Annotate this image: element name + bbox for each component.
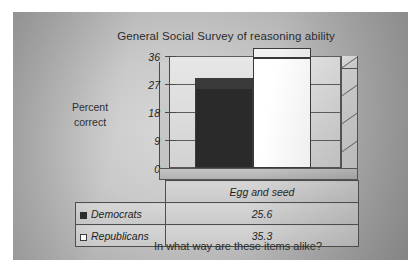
legend-key-democrats[interactable]: Democrats	[76, 203, 166, 225]
plot-area: 09182736	[153, 56, 358, 180]
y-axis-tick: 9	[165, 140, 176, 141]
data-table: Egg and seed Democrats 25.6 Republicans …	[75, 180, 359, 247]
bar-top-face	[253, 48, 311, 58]
table-spacer-cell	[76, 181, 166, 203]
plot-floor	[159, 168, 358, 180]
table-row: Democrats 25.6	[76, 203, 359, 225]
plot-left-depth-face	[159, 62, 169, 174]
bar-front-face	[253, 58, 311, 168]
bar-front-face	[195, 88, 253, 168]
slide-canvas: General Social Survey of reasoning abili…	[13, 12, 408, 260]
bar-top-face	[195, 78, 253, 88]
category-header-cell: Egg and seed	[166, 181, 359, 203]
y-axis-tick: 18	[165, 112, 176, 113]
democrats-swatch-icon	[80, 212, 87, 219]
y-axis-tick-label: 9	[154, 135, 160, 147]
y-axis-tick-label: 27	[148, 79, 160, 91]
chart-caption: In what way are these items alike?	[113, 240, 363, 252]
y-axis-title: Percent correct	[51, 100, 129, 130]
y-axis: 09182736	[169, 56, 170, 168]
chart-title: General Social Survey of reasoning abili…	[101, 30, 351, 42]
y-axis-title-line2: correct	[51, 115, 129, 130]
y-axis-tick-label: 36	[148, 51, 160, 63]
y-axis-tick-label: 18	[148, 107, 160, 119]
y-axis-tick: 36	[165, 56, 176, 57]
legend-label-democrats: Democrats	[91, 208, 142, 220]
value-democrats: 25.6	[166, 203, 359, 225]
republicans-swatch-icon	[80, 234, 87, 241]
y-axis-tick: 27	[165, 84, 176, 85]
table-row-category: Egg and seed	[76, 181, 359, 203]
y-axis-title-line1: Percent	[51, 100, 129, 115]
